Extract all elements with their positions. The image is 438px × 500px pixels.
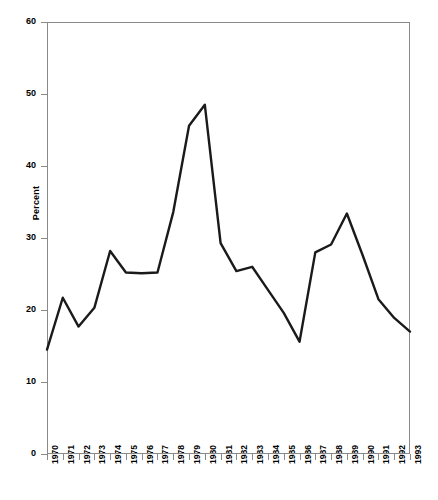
y-tick-label: 40: [0, 161, 36, 170]
x-tick-mark: [157, 454, 158, 460]
x-tick-mark: [410, 454, 411, 460]
x-tick-mark: [363, 454, 364, 460]
x-tick-mark: [126, 454, 127, 460]
series-line: [47, 22, 410, 454]
x-tick-mark: [63, 454, 64, 460]
x-tick-mark: [394, 454, 395, 460]
x-tick-mark: [331, 454, 332, 460]
x-tick-mark: [110, 454, 111, 460]
x-tick-mark: [79, 454, 80, 460]
x-tick-mark: [347, 454, 348, 460]
y-tick-label: 0: [0, 449, 36, 458]
x-tick-mark: [142, 454, 143, 460]
x-tick-mark: [378, 454, 379, 460]
x-tick-label: 1993: [414, 445, 423, 464]
series-polyline: [47, 105, 410, 350]
x-tick-mark: [236, 454, 237, 460]
y-tick-label: 60: [0, 17, 36, 26]
x-tick-mark: [268, 454, 269, 460]
x-tick-mark: [94, 454, 95, 460]
x-tick-mark: [315, 454, 316, 460]
x-tick-mark: [284, 454, 285, 460]
plot-area: [47, 22, 410, 454]
y-tick-label: 10: [0, 377, 36, 386]
y-tick-label: 20: [0, 305, 36, 314]
y-tick-label: 50: [0, 89, 36, 98]
x-tick-mark: [47, 454, 48, 460]
x-tick-mark: [189, 454, 190, 460]
x-tick-mark: [205, 454, 206, 460]
y-tick-label: 30: [0, 233, 36, 242]
x-tick-mark: [173, 454, 174, 460]
x-tick-mark: [300, 454, 301, 460]
x-tick-mark: [252, 454, 253, 460]
x-tick-mark: [221, 454, 222, 460]
line-chart-figure: Percent 0102030405060 197019711972197319…: [0, 0, 438, 500]
